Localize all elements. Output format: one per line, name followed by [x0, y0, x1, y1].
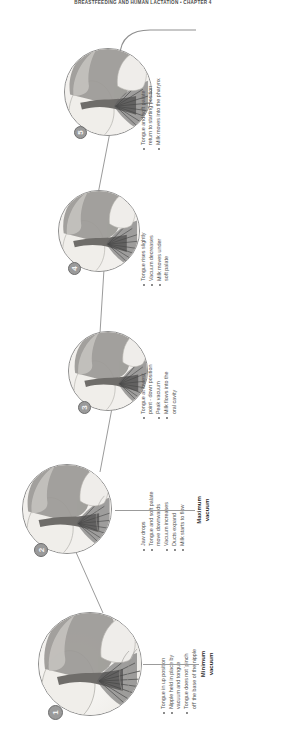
- stage-caption-5: Tongue and soft palatereturn to starting…: [140, 20, 163, 150]
- minimum-vacuum-label: Minimum vacuum: [200, 636, 215, 692]
- stage-illustration-2: [22, 464, 112, 554]
- bullet-item: Milk starts to flow: [179, 431, 186, 551]
- stage-node-5[interactable]: 5: [64, 48, 152, 136]
- stage-caption-3: Tongue at lowestpoint - down position Pe…: [140, 299, 179, 419]
- stage-caption-2: Jaw drops Tongue and soft palatemove dow…: [140, 431, 187, 551]
- maximum-vacuum-label: Maximum vacuum: [196, 482, 211, 538]
- bullet-item: Ducts expand: [171, 431, 178, 551]
- maximum-vacuum-leader: [115, 510, 195, 511]
- stage-badge-3: 3: [78, 401, 91, 414]
- bullet-item: Peak vacuum: [155, 299, 162, 419]
- bullet-item: Tongue rises slightly: [140, 166, 147, 286]
- bullet-item: Vacuum increases: [163, 431, 170, 551]
- bullet-item: Milk moves undersoft palate: [156, 166, 171, 286]
- bullet-item: Jaw drops: [140, 431, 147, 551]
- bullet-item: Nipple held in place byvacuum and tongue: [168, 594, 183, 714]
- bullet-item: Tongue in up position: [160, 594, 167, 714]
- stage-illustration-3: [68, 331, 148, 411]
- stage-node-3[interactable]: 3: [68, 331, 148, 411]
- stage-illustration-1: [38, 612, 142, 716]
- figure-canvas: 1 Tongue in up position Nipple held in p…: [0, 0, 286, 756]
- bullet-item: Tongue at lowestpoint - down position: [140, 299, 155, 419]
- stage-badge-4: 4: [68, 262, 81, 275]
- stage-illustration-4: [58, 190, 140, 272]
- stage-caption-4: Tongue rises slightly Vacuum decreases M…: [140, 166, 171, 286]
- bullet-item: Vacuum decreases: [148, 166, 155, 286]
- stage-illustration-5: [64, 48, 152, 136]
- stage-badge-2: 2: [34, 543, 48, 557]
- bullet-item: Tongue and soft palatereturn to starting…: [140, 20, 155, 150]
- bullet-item: Tongue does not ‘pinchoff’ the base of t…: [183, 594, 198, 714]
- bullet-item: Tongue and soft palatemove downwards: [148, 431, 163, 551]
- stage-badge-1: 1: [48, 705, 63, 720]
- bullet-item: Milk flows into theoral cavity: [163, 299, 178, 419]
- stage-node-4[interactable]: 4: [58, 190, 140, 272]
- stage-node-1[interactable]: 1: [38, 612, 142, 716]
- stage-node-2[interactable]: 2: [22, 464, 112, 554]
- stage-caption-1: Tongue in up position Nipple held in pla…: [160, 594, 199, 714]
- bullet-item: Milk moves into the pharynx: [155, 20, 162, 150]
- stage-badge-5: 5: [74, 126, 87, 139]
- suck-cycle-diagram: 1 Tongue in up position Nipple held in p…: [0, 0, 286, 756]
- minimum-vacuum-leader: [143, 664, 199, 665]
